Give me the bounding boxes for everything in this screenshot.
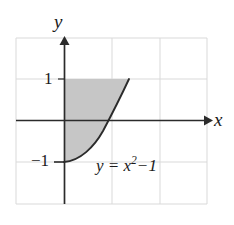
equation-constant: 1 <box>148 156 157 175</box>
equation-lhs: y = x <box>96 156 131 175</box>
plot-canvas <box>0 0 234 225</box>
y-axis-label: y <box>54 12 62 31</box>
parabola-shaded-region-figure: y x 1 −1 y = x2−1 <box>0 0 234 225</box>
x-axis-label: x <box>214 110 222 129</box>
equation-operator: − <box>137 156 149 175</box>
curve-equation-label: y = x2−1 <box>96 157 157 174</box>
y-tick-label-negative-1: −1 <box>31 152 49 169</box>
x-axis <box>16 116 213 126</box>
equation-exponent: 2 <box>131 154 137 167</box>
y-tick-label-1: 1 <box>44 70 53 87</box>
